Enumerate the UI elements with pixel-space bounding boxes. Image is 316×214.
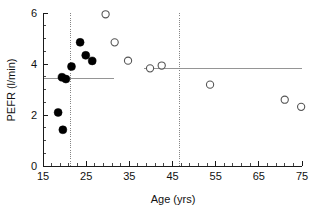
data-point-open	[124, 57, 131, 64]
data-point-filled	[82, 51, 90, 59]
x-tick-label: 55	[210, 170, 222, 182]
chart-figure: 152535455565750246 Age (yrs) PEFR (l/min…	[0, 0, 316, 214]
series-open-group	[102, 11, 305, 111]
x-tick-label: 65	[253, 170, 265, 182]
data-point-open	[158, 62, 165, 69]
data-point-filled	[54, 108, 62, 116]
y-axis-title: PEFR (l/min)	[5, 59, 17, 122]
data-point-open	[102, 11, 109, 18]
scatter-plot-svg: 152535455565750246 Age (yrs) PEFR (l/min…	[0, 0, 316, 214]
x-tick-label: 15	[37, 170, 49, 182]
data-point-filled	[76, 38, 84, 46]
x-tick-label: 75	[296, 170, 308, 182]
x-axis-title: Age (yrs)	[151, 193, 196, 205]
y-tick-label: 2	[31, 109, 37, 121]
y-tick-label: 0	[31, 160, 37, 172]
data-point-open	[206, 81, 213, 88]
reference-lines-group	[43, 13, 302, 166]
x-tick-label: 25	[80, 170, 92, 182]
x-tick-label: 35	[123, 170, 135, 182]
data-point-filled	[88, 57, 96, 65]
data-point-filled	[62, 75, 70, 83]
y-tick-label: 6	[31, 7, 37, 19]
x-tick-label: 45	[166, 170, 178, 182]
data-point-filled	[67, 63, 75, 71]
data-point-open	[298, 103, 305, 110]
data-point-filled	[59, 126, 67, 134]
series-filled-group	[54, 38, 96, 133]
data-point-open	[281, 96, 288, 103]
axes-group	[43, 13, 302, 166]
tick-marks-group	[43, 13, 302, 166]
data-point-open	[111, 39, 118, 46]
data-point-open	[146, 65, 153, 72]
y-tick-label: 4	[31, 58, 37, 70]
tick-labels-group: 152535455565750246	[31, 7, 308, 182]
